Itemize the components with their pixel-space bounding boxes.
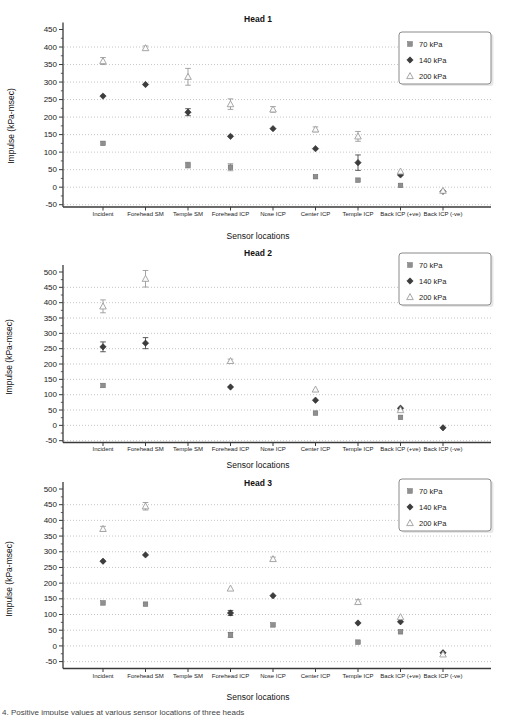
data-point-triangle [100, 303, 107, 309]
data-point-diamond [100, 93, 106, 99]
data-point-diamond [142, 81, 148, 87]
head-2-chart: Head 2 Impulse (kPa-msec) Sensor locatio… [0, 242, 507, 471]
category-label: Back ICP (-ve) [424, 673, 463, 679]
data-point-diamond [312, 397, 318, 403]
data-point-square [143, 602, 148, 607]
head-1-panel: Head 1 Impulse (kPa-msec) Sensor locatio… [0, 6, 507, 242]
data-point-square [228, 633, 233, 638]
data-point-square [398, 629, 403, 634]
data-point-square [356, 178, 361, 183]
legend-label: 140 kPa [419, 277, 447, 286]
y-axis-label: Impulse (kPa-msec) [6, 88, 16, 164]
y-tick-label: 150 [44, 375, 58, 384]
y-tick-label: 150 [44, 130, 58, 139]
y-tick-label: 150 [44, 594, 58, 603]
category-label: Temple ICP [342, 446, 373, 452]
y-tick-label: 300 [44, 329, 58, 338]
y-axis-label: Impulse (kPa-msec) [4, 541, 14, 617]
category-label: Center ICP [301, 211, 331, 217]
chart-title: Head 2 [244, 248, 272, 258]
data-point-square [101, 601, 106, 606]
data-point-square [101, 141, 106, 146]
y-tick-label: 200 [44, 360, 58, 369]
legend-label: 70 kPa [419, 261, 443, 270]
x-axis-label: Sensor locations [227, 231, 290, 241]
data-point-square [408, 489, 413, 494]
y-tick-label: 250 [44, 95, 58, 104]
data-point-diamond [100, 558, 106, 564]
category-label: Back ICP (+ve) [380, 211, 420, 217]
x-axis-label: Sensor locations [227, 460, 290, 470]
head-3-panel: Head 3 Impulse (kPa-msec) Sensor locatio… [0, 471, 507, 708]
y-tick-label: 100 [44, 148, 58, 157]
y-tick-label: 300 [44, 547, 58, 556]
data-point-square [186, 163, 191, 168]
y-tick-label: 350 [44, 314, 58, 323]
category-label: Nose ICP [260, 211, 286, 217]
data-point-square [356, 640, 361, 645]
chart-title: Head 1 [244, 14, 272, 24]
y-tick-label: 500 [44, 268, 58, 277]
data-point-diamond [227, 133, 233, 139]
data-point-triangle [142, 503, 149, 509]
data-point-square [408, 263, 413, 268]
y-tick-label: 200 [44, 113, 58, 122]
category-label: Temple SM [173, 673, 203, 679]
data-point-triangle [185, 73, 192, 79]
data-point-triangle [355, 133, 362, 139]
head-2-panel: Head 2 Impulse (kPa-msec) Sensor locatio… [0, 242, 507, 471]
y-tick-label: 100 [44, 390, 58, 399]
legend-label: 200 kPa [419, 293, 447, 302]
y-tick-label: -50 [45, 200, 57, 209]
y-tick-label: 450 [44, 25, 58, 34]
y-tick-label: 250 [44, 563, 58, 572]
data-point-diamond [142, 340, 148, 346]
legend: 70 kPa140 kPa200 kPa [399, 253, 494, 307]
data-point-diamond [355, 159, 361, 165]
data-point-triangle [397, 614, 404, 620]
plot-area: 500450400350300250200150100500-50Inciden… [44, 479, 494, 679]
category-label: Forehead SM [127, 673, 163, 679]
data-point-triangle [100, 58, 107, 64]
data-point-diamond [100, 344, 106, 350]
data-point-triangle [227, 585, 234, 591]
chart-title: Head 3 [244, 478, 272, 488]
plot-area: 500450400350300250200150100500-50Inciden… [44, 253, 494, 452]
y-tick-label: 450 [44, 500, 58, 509]
category-label: Temple SM [173, 211, 203, 217]
legend-label: 200 kPa [419, 72, 447, 81]
x-axis-label: Sensor locations [227, 692, 290, 702]
data-point-diamond [185, 109, 191, 115]
y-tick-label: 450 [44, 283, 58, 292]
data-point-square [408, 42, 413, 47]
y-tick-label: -50 [45, 436, 57, 445]
y-tick-label: 350 [44, 532, 58, 541]
category-label: Forehead SM [127, 211, 163, 217]
legend-label: 70 kPa [419, 487, 443, 496]
data-point-square [313, 411, 318, 416]
head-1-chart: Head 1 Impulse (kPa-msec) Sensor locatio… [0, 6, 507, 242]
data-point-square [398, 183, 403, 188]
y-tick-label: 0 [53, 183, 58, 192]
category-label: Back ICP (+ve) [380, 673, 420, 679]
plot-area: 450400350300250200150100500-50IncidentFo… [44, 23, 494, 218]
data-point-diamond [355, 620, 361, 626]
category-label: Temple ICP [342, 673, 373, 679]
category-label: Center ICP [301, 673, 331, 679]
data-point-triangle [142, 275, 149, 281]
data-point-triangle [270, 556, 277, 562]
data-point-square [101, 383, 106, 388]
data-point-triangle [227, 358, 234, 364]
y-tick-label: 350 [44, 60, 58, 69]
data-point-diamond [270, 592, 276, 598]
y-tick-label: 50 [48, 165, 57, 174]
data-point-triangle [312, 386, 319, 392]
category-label: Temple ICP [342, 211, 373, 217]
y-tick-label: 400 [44, 43, 58, 52]
figure-caption: 4. Positive impulse values at various se… [2, 708, 507, 715]
data-point-square [271, 623, 276, 628]
y-tick-label: 200 [44, 579, 58, 588]
head-3-chart: Head 3 Impulse (kPa-msec) Sensor locatio… [0, 471, 507, 708]
data-point-diamond [227, 384, 233, 390]
legend-label: 70 kPa [419, 40, 443, 49]
